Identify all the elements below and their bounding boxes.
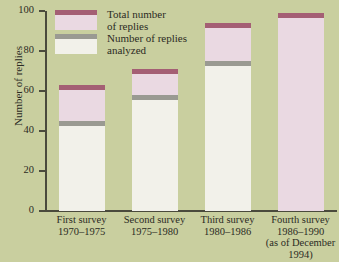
legend-label: Total number of replies (107, 9, 166, 32)
legend-swatch-total-replies (55, 10, 97, 30)
y-tick-label: 80 (8, 45, 34, 56)
clipped-caption-text (4, 0, 304, 4)
legend-swatch-body (55, 39, 97, 54)
bar-segment-analyzed (205, 61, 251, 211)
bar-segment-analyzed-cap (132, 95, 178, 100)
bar-segment-total-cap (59, 85, 105, 90)
bar-1 (59, 85, 105, 211)
bar-2 (132, 69, 178, 211)
y-tick-label: 60 (8, 85, 34, 96)
chart-legend: Total number of repliesNumber of replies… (55, 10, 295, 58)
y-tick-label: 100 (8, 5, 34, 16)
x-axis-label-1: First survey 1970–1975 (40, 214, 124, 237)
legend-swatch-replies-analyzed (55, 34, 97, 54)
y-tick-label: 40 (8, 125, 34, 136)
bar-segment-total-cap (132, 69, 178, 74)
x-axis-label-3: Third survey 1980–1986 (186, 214, 270, 237)
legend-item-replies-analyzed: Number of replies analyzed (55, 34, 295, 56)
y-tick-label: 20 (8, 165, 34, 176)
legend-swatch-body (55, 15, 97, 30)
x-axis-label-2: Second survey 1975–1980 (113, 214, 197, 237)
bar-segment-analyzed (59, 121, 105, 211)
bar-segment-analyzed-cap (59, 121, 105, 126)
y-tick-label: 0 (8, 205, 34, 216)
x-axis-label-4: Fourth survey 1986–1990 (as of December … (259, 214, 339, 260)
bar-chart: Number of replies 020406080100 Total num… (0, 0, 339, 262)
legend-item-total-replies: Total number of replies (55, 10, 295, 32)
bar-segment-analyzed-cap (205, 61, 251, 66)
bar-segment-analyzed (132, 95, 178, 211)
legend-label: Number of replies analyzed (107, 33, 187, 56)
